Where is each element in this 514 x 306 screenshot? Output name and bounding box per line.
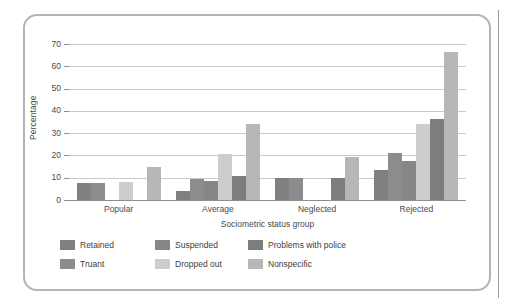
legend-label: Dropped out: [175, 259, 222, 269]
x-axis-tick-label: Rejected: [367, 204, 466, 214]
x-axis-tick-label: Popular: [69, 204, 168, 214]
bar: [374, 170, 388, 200]
y-axis-tick-label: 0: [41, 196, 61, 205]
x-axis-tick-label: Average: [168, 204, 267, 214]
bar: [176, 191, 190, 200]
bar: [147, 167, 161, 200]
y-axis-title: Percentage: [26, 78, 40, 158]
bar: [232, 176, 246, 201]
y-axis-tick-label: 10: [41, 173, 61, 182]
x-axis-baseline: [69, 200, 466, 201]
legend-item: Suspended: [155, 238, 218, 251]
y-axis-tick-label: 60: [41, 62, 61, 71]
bar: [218, 154, 232, 200]
y-axis-tick-label: 70: [41, 40, 61, 49]
y-axis-tick-label: 30: [41, 129, 61, 138]
legend-item: Problems with police: [248, 238, 346, 251]
legend-label: Problems with police: [268, 240, 346, 250]
bar: [190, 179, 204, 200]
legend-item: Truant: [60, 257, 104, 270]
legend-label: Suspended: [175, 240, 218, 250]
bar: [331, 178, 345, 200]
bar: [91, 183, 105, 200]
bar: [77, 183, 91, 200]
y-axis-tick-label: 20: [41, 151, 61, 160]
bar: [204, 181, 218, 200]
bar: [430, 119, 444, 200]
bar: [275, 178, 289, 200]
bar: [345, 157, 359, 200]
bar: [388, 153, 402, 200]
bar-group: [77, 44, 161, 200]
legend-swatch: [248, 259, 263, 269]
bar: [119, 182, 133, 200]
legend-label: Retained: [80, 240, 114, 250]
bar-group: [374, 44, 458, 200]
bar-chart: Percentage 010203040506070 PopularAverag…: [0, 0, 514, 306]
legend-label: Truant: [80, 259, 104, 269]
bar: [416, 124, 430, 200]
y-axis-tick-label: 40: [41, 106, 61, 115]
legend-swatch: [60, 259, 75, 269]
legend-item: Retained: [60, 238, 114, 251]
bar: [444, 52, 458, 200]
bar-group: [176, 44, 260, 200]
legend-item: Nonspecific: [248, 257, 312, 270]
legend-swatch: [248, 240, 263, 250]
legend-swatch: [155, 259, 170, 269]
bar: [289, 178, 303, 200]
bar: [246, 124, 260, 200]
x-axis-title: Sociometric status group: [69, 219, 466, 229]
legend-swatch: [60, 240, 75, 250]
page-background: Percentage 010203040506070 PopularAverag…: [0, 0, 514, 306]
plot-area: [69, 44, 466, 200]
y-axis-tick-label: 50: [41, 84, 61, 93]
legend-label: Nonspecific: [268, 259, 312, 269]
bar-group: [275, 44, 359, 200]
x-axis-tick-label: Neglected: [268, 204, 367, 214]
bar: [402, 161, 416, 200]
legend-item: Dropped out: [155, 257, 222, 270]
chart-legend: RetainedSuspendedProblems with policeTru…: [60, 238, 460, 276]
legend-swatch: [155, 240, 170, 250]
